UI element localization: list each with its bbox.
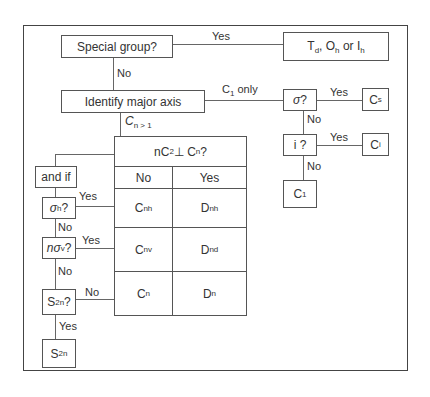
and-if-connector <box>55 154 114 155</box>
table-header: nC2⊥ Cn? <box>115 137 246 167</box>
cs-result-node: Cs <box>362 88 389 111</box>
sigma-yes-edge <box>317 100 362 101</box>
table-cell: Dnh <box>173 189 246 228</box>
s2n-question-node: S2n? <box>42 289 76 315</box>
sigma-h-no-edge <box>55 219 56 237</box>
identify-axis-label: Identify major axis <box>85 95 182 109</box>
special-group-label: Special group? <box>77 40 157 54</box>
c1-only-edge <box>205 100 283 101</box>
special-group-node: Special group? <box>61 35 173 58</box>
special-no-label: No <box>117 67 131 79</box>
sigma-yes-label: Yes <box>330 86 348 98</box>
cn-gt1-label: Cn > 1 <box>125 114 152 130</box>
classification-table: nC2⊥ Cn? No Yes Cnh Dnh Cnv Dnd Cn Dn <box>114 136 247 316</box>
special-yes-label: Yes <box>212 30 230 42</box>
c1-result-node: C1 <box>283 180 317 208</box>
i-yes-label: Yes <box>330 131 348 143</box>
column-header-yes: Yes <box>173 167 246 189</box>
n-sigma-v-no-edge <box>55 259 56 289</box>
s2n-no-label: No <box>85 286 99 298</box>
n-sigma-v-question-node: nσv? <box>42 237 76 259</box>
i-no-edge <box>303 156 304 180</box>
sigma-h-question-node: σh? <box>42 197 76 219</box>
table-cell: Cnh <box>115 189 173 228</box>
i-yes-edge <box>317 145 362 146</box>
s2n-yes-edge <box>55 315 56 339</box>
sigma-no-edge <box>303 111 304 134</box>
sigma-h-yes-label: Yes <box>79 190 97 202</box>
sigma-h-yes-edge <box>76 206 114 207</box>
table-cell: Cn <box>115 272 173 315</box>
n-sigma-v-no-label: No <box>58 265 72 277</box>
sigma-h-no-label: No <box>58 221 72 233</box>
special-no-edge <box>113 58 114 90</box>
s2n-yes-label: Yes <box>59 320 77 332</box>
table-cell: Cnv <box>115 228 173 272</box>
column-header-no: No <box>115 167 173 189</box>
special-result-label: Td, Oh or Ih <box>307 39 364 55</box>
cn-gt1-edge <box>120 113 121 136</box>
n-sigma-v-yes-label: Yes <box>82 234 100 246</box>
sigma-no-label: No <box>307 113 321 125</box>
special-yes-edge <box>173 44 283 45</box>
s2n-no-edge <box>76 299 114 300</box>
n-sigma-v-yes-edge <box>76 248 114 249</box>
ci-result-node: Ci <box>362 133 389 156</box>
table-cell: Dn <box>173 272 246 315</box>
c1-only-label: C1 only <box>222 83 258 98</box>
and-if-connector-down <box>55 154 56 166</box>
and-if-node: and if <box>35 166 77 188</box>
identify-axis-node: Identify major axis <box>61 90 205 113</box>
table-cell: Dnd <box>173 228 246 272</box>
special-result-node: Td, Oh or Ih <box>283 32 389 61</box>
i-no-label: No <box>307 160 321 172</box>
sigma-question-node: σ? <box>283 89 317 111</box>
s2n-result-node: S2n <box>42 339 76 368</box>
inversion-question-node: i ? <box>283 134 317 156</box>
and-if-down-edge <box>55 188 56 197</box>
